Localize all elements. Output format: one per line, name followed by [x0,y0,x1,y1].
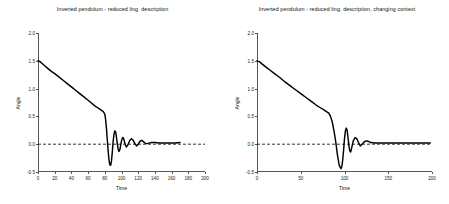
x-tick-mark [188,172,189,174]
x-tick-mark [205,172,206,174]
y-tick-label: 2.0 [248,31,254,36]
y-tick-label: 0.5 [29,114,35,119]
x-tick-mark [38,172,39,174]
x-tick-label: 80 [102,176,107,181]
plot-area-right: Angle Time -0.50.00.51.01.52.00501001502… [257,33,432,172]
x-tick-label: 140 [151,176,159,181]
series-angle-line [38,61,180,166]
x-tick-label: 100 [341,176,349,181]
x-tick-mark [301,172,302,174]
x-tick-mark [71,172,72,174]
chart-panel-left: Inverted pendulum - reduced ling. descri… [0,0,225,204]
y-tick-mark [255,144,257,145]
y-axis-label: Angle [15,96,21,109]
data-line-left [38,33,205,172]
y-tick-label: 2.0 [29,31,35,36]
x-tick-label: 100 [118,176,126,181]
x-tick-label: 180 [184,176,192,181]
x-tick-label: 0 [37,176,40,181]
y-tick-label: 0.0 [248,142,254,147]
y-tick-label: 1.0 [29,86,35,91]
x-tick-mark [172,172,173,174]
y-tick-mark [255,33,257,34]
x-tick-mark [388,172,389,174]
x-tick-label: 120 [134,176,142,181]
x-tick-mark [155,172,156,174]
chart-title-right: Inverted pendulum - reduced ling. descri… [225,5,449,13]
x-tick-label: 200 [201,176,209,181]
x-tick-mark [257,172,258,174]
x-tick-mark [55,172,56,174]
y-tick-label: 0.0 [29,142,35,147]
x-tick-label: 40 [69,176,74,181]
y-tick-label: 0.5 [248,114,254,119]
y-tick-label: -0.5 [27,170,35,175]
chart-title-left: Inverted pendulum - reduced ling. descri… [0,5,225,13]
chart-panel-right: Inverted pendulum - reduced ling. descri… [225,0,449,204]
y-axis-label: Angle [234,96,240,109]
y-tick-mark [255,116,257,117]
x-tick-label: 50 [298,176,303,181]
figure-two-panel-plot: Inverted pendulum - reduced ling. descri… [0,0,449,204]
y-tick-label: -0.5 [246,170,254,175]
x-tick-mark [345,172,346,174]
x-tick-label: 150 [384,176,392,181]
y-tick-label: 1.5 [29,58,35,63]
x-tick-label: 20 [52,176,57,181]
x-tick-mark [105,172,106,174]
x-tick-mark [432,172,433,174]
x-axis-label: Time [257,185,432,191]
y-tick-label: 1.0 [248,86,254,91]
series-angle-line [257,61,430,169]
plot-area-left: Angle Time -0.50.00.51.01.52.00204060801… [38,33,205,172]
y-tick-label: 1.5 [248,58,254,63]
y-tick-mark [36,61,38,62]
x-tick-label: 160 [168,176,176,181]
data-line-right [257,33,432,172]
y-tick-mark [255,89,257,90]
y-tick-mark [36,33,38,34]
x-axis-label: Time [38,185,205,191]
y-tick-mark [36,116,38,117]
y-tick-mark [36,89,38,90]
y-tick-mark [255,61,257,62]
x-tick-mark [138,172,139,174]
x-tick-label: 200 [428,176,436,181]
x-tick-mark [88,172,89,174]
x-tick-mark [122,172,123,174]
x-tick-label: 0 [256,176,259,181]
x-tick-label: 60 [86,176,91,181]
y-tick-mark [36,144,38,145]
